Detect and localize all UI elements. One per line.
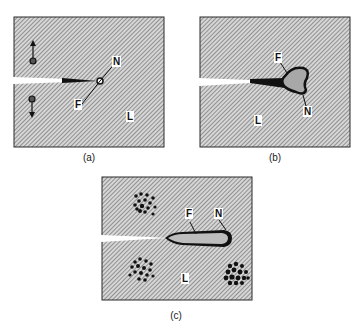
label-notch-a: N xyxy=(112,56,121,67)
panel-c xyxy=(101,177,252,300)
label-fracture-b: F xyxy=(274,52,282,63)
label-fracture-a: F xyxy=(74,99,82,110)
panel-a xyxy=(13,17,164,147)
label-notch-b: N xyxy=(303,106,312,117)
label-lattice-a: L xyxy=(126,111,134,122)
panel-b xyxy=(199,17,350,147)
caption-a: (a) xyxy=(74,152,104,163)
label-lattice-c: L xyxy=(181,273,189,284)
caption-c: (c) xyxy=(161,310,191,321)
label-lattice-b: L xyxy=(254,115,262,126)
label-fracture-c: F xyxy=(185,208,193,219)
label-notch-c: N xyxy=(214,208,223,219)
caption-b: (b) xyxy=(260,152,290,163)
